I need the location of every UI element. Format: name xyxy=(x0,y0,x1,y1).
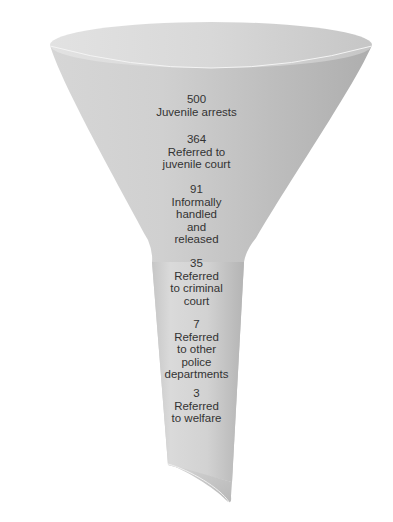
stage-label: released xyxy=(0,233,393,246)
stage-label: Juvenile arrests xyxy=(0,106,393,119)
stage-referred-welfare: 3 Referred to welfare xyxy=(0,387,393,425)
stage-label: Referred xyxy=(0,400,393,413)
stage-referred-other-police: 7 Referred to other police departments xyxy=(0,318,393,381)
stage-count: 7 xyxy=(0,318,393,331)
stage-label: police xyxy=(0,356,393,369)
funnel-labels: 500 Juvenile arrests 364 Referred to juv… xyxy=(0,0,393,522)
stage-count: 500 xyxy=(0,93,393,106)
stage-label: juvenile court xyxy=(0,158,393,171)
stage-count: 91 xyxy=(0,183,393,196)
stage-label: and xyxy=(0,221,393,234)
stage-referred-criminal-court: 35 Referred to criminal court xyxy=(0,257,393,307)
stage-label: Referred to xyxy=(0,146,393,159)
stage-label: to other xyxy=(0,343,393,356)
stage-count: 35 xyxy=(0,257,393,270)
stage-label: Referred xyxy=(0,331,393,344)
stage-referred-juvenile-court: 364 Referred to juvenile court xyxy=(0,133,393,171)
stage-label: departments xyxy=(0,368,393,381)
stage-juvenile-arrests: 500 Juvenile arrests xyxy=(0,93,393,118)
stage-label: court xyxy=(0,295,393,308)
stage-label: Informally xyxy=(0,196,393,209)
stage-label: to welfare xyxy=(0,412,393,425)
stage-label: Referred xyxy=(0,270,393,283)
stage-count: 3 xyxy=(0,387,393,400)
stage-informally-handled: 91 Informally handled and released xyxy=(0,183,393,246)
stage-label: to criminal xyxy=(0,282,393,295)
stage-label: handled xyxy=(0,208,393,221)
stage-count: 364 xyxy=(0,133,393,146)
